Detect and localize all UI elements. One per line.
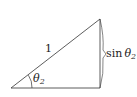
angle-label: θ2 [33, 73, 45, 86]
triangle [11, 19, 100, 88]
angle-subscript: 2 [40, 77, 45, 86]
angle-arc [28, 75, 32, 88]
opposite-label: sin θ2 [106, 48, 136, 61]
opposite-subscript: 2 [131, 52, 136, 61]
triangle-diagram: 1 θ2 sin θ2 [0, 0, 137, 97]
angle-symbol: θ [33, 72, 40, 85]
sin-func: sin [106, 47, 122, 60]
hypotenuse-label: 1 [45, 43, 52, 54]
